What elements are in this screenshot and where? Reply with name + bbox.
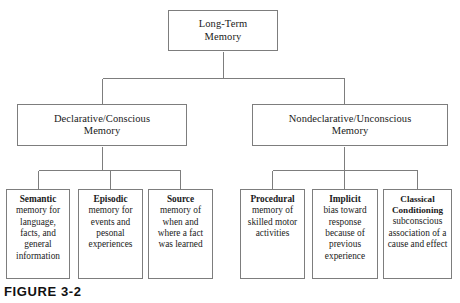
node-classical-conditioning: Classical Conditioning subconscious asso… xyxy=(383,189,452,279)
node-procedural-term: Procedural xyxy=(243,194,302,205)
node-long-term-memory: Long-Term Memory xyxy=(168,10,278,51)
node-episodic-term: Episodic xyxy=(81,194,140,205)
node-long-term-memory-line1: Long-Term xyxy=(199,18,248,29)
node-semantic-description: memory for language, facts, and general … xyxy=(9,205,67,262)
node-implicit-description: bias toward response because of previous… xyxy=(315,205,375,262)
node-procedural-description: memory of skilled motor activities xyxy=(243,205,302,239)
node-implicit-term: Implicit xyxy=(315,194,375,205)
node-declarative-conscious-memory: Declarative/Conscious Memory xyxy=(17,104,187,146)
node-long-term-memory-line2: Memory xyxy=(205,31,242,42)
node-declarative-label: Declarative/Conscious Memory xyxy=(54,113,150,138)
node-semantic-term: Semantic xyxy=(9,194,67,205)
node-episodic-memory: Episodic memory for events and pesonal e… xyxy=(78,189,143,279)
figure-caption: FIGURE 3-2 xyxy=(4,284,82,299)
node-nondeclarative-line1: Nondeclarative/Unconscious xyxy=(289,113,412,124)
node-nondeclarative-line2: Memory xyxy=(332,125,368,136)
node-semantic-memory: Semantic memory for language, facts, and… xyxy=(6,189,70,279)
node-declarative-line2: Memory xyxy=(84,125,120,136)
node-source-description: memory of when and where a fact was lear… xyxy=(151,205,210,250)
node-classical-description: subconscious association of a cause and … xyxy=(386,216,449,250)
node-episodic-description: memory for events and pesonal experience… xyxy=(81,205,140,250)
node-source-memory: Source memory of when and where a fact w… xyxy=(148,189,213,279)
node-declarative-line1: Declarative/Conscious xyxy=(54,113,150,124)
node-implicit-memory: Implicit bias toward response because of… xyxy=(312,189,378,279)
node-long-term-memory-label: Long-Term Memory xyxy=(199,18,248,43)
node-source-term: Source xyxy=(151,194,210,205)
node-procedural-memory: Procedural memory of skilled motor activ… xyxy=(240,189,305,279)
node-classical-term: Classical Conditioning xyxy=(386,194,449,216)
long-term-memory-diagram: Long-Term Memory Declarative/Conscious M… xyxy=(0,0,460,303)
node-nondeclarative-unconscious-memory: Nondeclarative/Unconscious Memory xyxy=(252,104,448,146)
node-nondeclarative-label: Nondeclarative/Unconscious Memory xyxy=(289,113,412,138)
